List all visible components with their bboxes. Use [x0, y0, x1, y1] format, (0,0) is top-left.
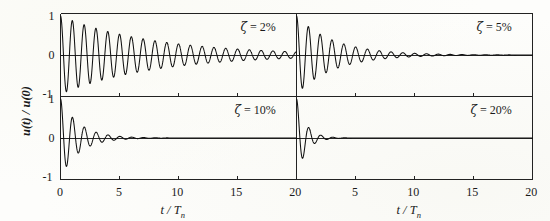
y-axis-title-denominator: u(0): [19, 85, 33, 107]
y-axis-title-separator: /: [19, 107, 33, 117]
x-tick-label-left-15: 15: [230, 186, 242, 198]
x-tick-label-right-5: 5: [352, 186, 358, 198]
x-tick-label-right-15: 15: [466, 186, 478, 198]
x-axis-title-left: t / Tn: [161, 204, 185, 219]
x-tick-label-left-0: 0: [57, 186, 63, 198]
damped-vibration-figure: u(t) / u(0) 10-110-1051015205101520t / T…: [0, 0, 550, 221]
y-tick-label-r0-0: 0: [49, 49, 55, 61]
panel-label-bl: ζ = 10%: [235, 104, 276, 116]
panel-label-tl: ζ = 2%: [241, 21, 276, 33]
x-tick-label-right-10: 10: [407, 186, 419, 198]
x-tick-label-left-10: 10: [171, 186, 183, 198]
y-tick-label-r1-0: 0: [49, 132, 55, 144]
x-tick-label-left-20: 20: [289, 186, 301, 198]
x-tick-label-right-20: 20: [525, 186, 537, 198]
panel-label-tr: ζ = 5%: [477, 21, 512, 33]
y-tick-label-r1-1: 1: [49, 93, 55, 105]
x-tick-label-left-5: 5: [116, 186, 122, 198]
y-tick-label-r0-1: 1: [49, 10, 55, 22]
panel-label-br: ζ = 20%: [471, 104, 512, 116]
x-axis-title-right: t / Tn: [397, 204, 421, 219]
y-axis-title-numerator: u(t): [19, 117, 33, 136]
y-tick-label-r1--1: -1: [43, 171, 53, 183]
y-axis-title: u(t) / u(0): [19, 85, 34, 135]
